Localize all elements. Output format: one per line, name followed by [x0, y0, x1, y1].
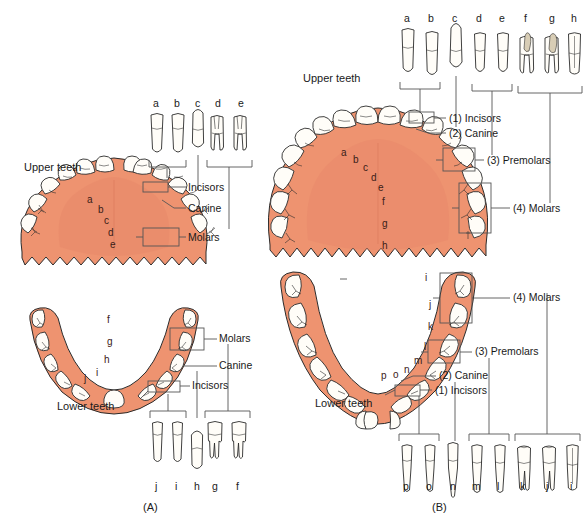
arch-letter-b-upper-b: b	[353, 155, 359, 165]
tooth-letter-a-upper-a: a	[153, 98, 159, 109]
arch-letter-b-upper-a: a	[341, 148, 347, 158]
callout-a-upper-molars: Molars	[188, 232, 220, 243]
tooth-letter-a-lower-i: i	[175, 481, 177, 492]
arch-letter-b-lower-o: o	[393, 370, 399, 380]
tooth-letter-b-lower-o: o	[426, 481, 432, 492]
panel-a-lower-isolated-teeth	[153, 422, 247, 469]
arch-letter-a-lower-i: i	[96, 368, 98, 378]
callout-a-upper-incisors: Incisors	[188, 182, 224, 193]
tooth-letter-a-upper-c: c	[195, 98, 200, 109]
tooth-letter-b-lower-l: l	[497, 481, 499, 492]
callout-b-upper-molars: (4) Molars	[513, 203, 560, 214]
arch-letter-a-lower-h: h	[104, 355, 110, 365]
arch-letter-b-lower-i: i	[425, 273, 427, 283]
panel-b-caption: (B)	[432, 501, 447, 513]
arch-letter-b-upper-h: h	[382, 241, 388, 251]
tooth-letter-b-upper-d: d	[476, 13, 482, 24]
arch-letter-a-upper-e: e	[110, 240, 116, 250]
tooth-letter-b-upper-e: e	[499, 13, 505, 24]
panel-a-lower-arch	[30, 308, 199, 414]
tooth-letter-a-lower-g: g	[212, 481, 218, 492]
callout-b-lower-molars: (4) Molars	[513, 292, 560, 303]
tooth-letter-b-lower-k: k	[520, 481, 525, 492]
arch-letter-a-upper-a: a	[87, 195, 93, 205]
panel-a-caption: (A)	[143, 501, 158, 513]
arch-letter-a-upper-b: b	[98, 205, 104, 215]
tooth-letter-a-lower-h: h	[194, 481, 200, 492]
tooth-letter-b-upper-c: c	[452, 13, 457, 24]
arch-letter-a-lower-g: g	[107, 337, 113, 347]
panel-a-upper-isolated-teeth	[151, 110, 247, 153]
arch-letter-b-upper-c: c	[363, 163, 368, 173]
arch-letter-a-upper-d: d	[108, 228, 114, 238]
panel-b-lower-arch	[281, 272, 476, 429]
tooth-letter-b-upper-g: g	[549, 13, 555, 24]
arch-letter-a-lower-f: f	[107, 315, 110, 325]
panel-b-upper-title: Upper teeth	[303, 72, 360, 84]
tooth-letter-b-lower-p: p	[403, 481, 409, 492]
callout-b-upper-incisors: (1) Incisors	[449, 113, 501, 124]
tooth-letter-b-lower-n: n	[450, 481, 456, 492]
panel-a-lower-title: Lower teeth	[57, 400, 114, 412]
callout-a-lower-incisors: Incisors	[192, 380, 228, 391]
arch-letter-b-upper-e: e	[378, 183, 384, 193]
dental-diagram-svg	[0, 0, 584, 522]
tooth-letter-b-lower-i: i	[570, 481, 572, 492]
arch-letter-b-upper-d: d	[371, 173, 377, 183]
arch-letter-a-lower-j: j	[84, 374, 86, 384]
figure-canvas: Upper teeth Lower teeth a b c d e a b c …	[0, 0, 584, 522]
callout-b-upper-canine: (2) Canine	[449, 128, 498, 139]
callout-b-lower-canine: (2) Canine	[439, 370, 488, 381]
panel-b-lower-title: Lower teeth	[315, 397, 372, 409]
tooth-letter-b-upper-a: a	[404, 13, 410, 24]
tooth-letter-b-lower-m: m	[472, 481, 481, 492]
callout-a-upper-canine: Canine	[188, 203, 221, 214]
arch-letter-b-lower-j: j	[429, 300, 431, 310]
arch-letter-b-lower-m: m	[414, 356, 422, 366]
tooth-letter-a-upper-b: b	[174, 98, 180, 109]
arch-letter-b-lower-k: k	[428, 322, 433, 332]
tooth-letter-a-upper-e: e	[238, 98, 244, 109]
callout-a-lower-molars: Molars	[219, 333, 251, 344]
arch-letter-b-upper-f: f	[382, 197, 385, 207]
tooth-letter-a-lower-j: j	[155, 481, 157, 492]
arch-letter-a-upper-c: c	[104, 216, 109, 226]
arch-letter-b-lower-p: p	[381, 371, 387, 381]
tooth-letter-b-upper-f: f	[524, 13, 527, 24]
arch-letter-b-lower-l: l	[424, 342, 426, 352]
tooth-letter-b-upper-b: b	[428, 13, 434, 24]
callout-b-lower-premolars: (3) Premolars	[475, 346, 539, 357]
callout-b-lower-incisors: (1) Incisors	[435, 385, 487, 396]
callout-b-upper-premolars: (3) Premolars	[487, 155, 551, 166]
panel-b-upper-isolated-teeth	[402, 24, 581, 75]
tooth-letter-b-lower-j: j	[546, 481, 548, 492]
tooth-letter-a-lower-f: f	[236, 481, 239, 492]
tooth-letter-a-upper-d: d	[215, 98, 221, 109]
panel-a-upper-title: Upper teeth	[24, 161, 81, 173]
arch-letter-b-upper-g: g	[382, 219, 388, 229]
arch-letter-b-lower-n: n	[404, 365, 410, 375]
callout-a-lower-canine: Canine	[219, 360, 252, 371]
tooth-letter-b-upper-h: h	[571, 13, 577, 24]
